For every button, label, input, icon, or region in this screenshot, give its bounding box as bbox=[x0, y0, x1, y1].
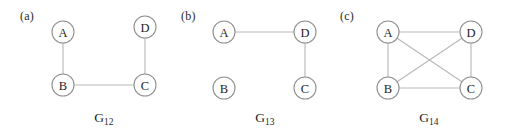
caption-name-a: G bbox=[94, 110, 104, 125]
caption-name-c: G bbox=[419, 110, 429, 125]
panel-caption-c: G14 bbox=[419, 110, 438, 127]
node-D-label: D bbox=[300, 26, 309, 40]
node-B[interactable]: B bbox=[377, 77, 399, 99]
panel-caption-a: G12 bbox=[94, 110, 113, 127]
node-D-label: D bbox=[466, 26, 475, 40]
node-C-label: C bbox=[141, 79, 149, 93]
node-B-label: B bbox=[59, 79, 67, 93]
graph-figure: ADBCADBCADBC (a)G12(b)G13(c)G14 bbox=[0, 0, 511, 136]
node-B[interactable]: B bbox=[52, 74, 74, 96]
node-A-label: A bbox=[383, 26, 392, 40]
node-C[interactable]: C bbox=[134, 74, 156, 96]
caption-subscript-a: 12 bbox=[104, 117, 114, 127]
caption-subscript-b: 13 bbox=[265, 117, 275, 127]
node-D[interactable]: D bbox=[460, 21, 482, 43]
node-C[interactable]: C bbox=[460, 77, 482, 99]
node-A-label: A bbox=[58, 26, 67, 40]
node-A[interactable]: A bbox=[213, 21, 235, 43]
panel-b-graph: ADBC bbox=[213, 21, 316, 99]
node-A[interactable]: A bbox=[377, 21, 399, 43]
node-D-label: D bbox=[140, 21, 149, 35]
panel-c-graph: ADBC bbox=[377, 21, 482, 99]
panel-a-graph: ADBC bbox=[52, 16, 156, 96]
caption-name-b: G bbox=[255, 110, 265, 125]
node-D[interactable]: D bbox=[294, 21, 316, 43]
panel-label-c: (c) bbox=[340, 9, 354, 24]
node-C[interactable]: C bbox=[294, 77, 316, 99]
panel-caption-b: G13 bbox=[255, 110, 274, 127]
node-A-label: A bbox=[219, 26, 228, 40]
node-B[interactable]: B bbox=[213, 77, 235, 99]
panel-label-a: (a) bbox=[20, 9, 34, 24]
panel-label-b: (b) bbox=[181, 9, 196, 24]
caption-subscript-c: 14 bbox=[429, 117, 439, 127]
node-B-label: B bbox=[220, 82, 228, 96]
node-A[interactable]: A bbox=[52, 21, 74, 43]
node-B-label: B bbox=[384, 82, 392, 96]
node-D[interactable]: D bbox=[134, 16, 156, 38]
node-C-label: C bbox=[467, 82, 475, 96]
node-C-label: C bbox=[301, 82, 309, 96]
